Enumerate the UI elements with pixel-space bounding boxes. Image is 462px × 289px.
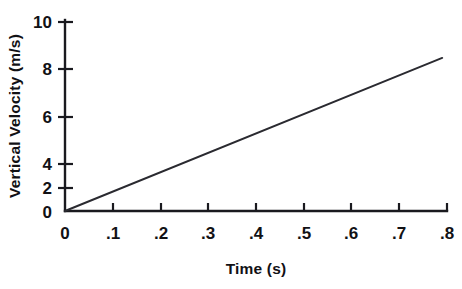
x-tick-label-0.7: .7 — [392, 224, 406, 243]
velocity-time-plot: 10 8 6 4 2 0 0 .1 .2 .3 .4 .5 .6 .7 .8 T… — [0, 0, 462, 289]
x-axis-title: Time (s) — [226, 260, 287, 277]
x-tick-label-0.5: .5 — [297, 224, 311, 243]
y-axis-title: Vertical Velocity (m/s) — [6, 34, 23, 198]
x-tick-label-0: 0 — [60, 224, 69, 243]
x-tick-label-0.4: .4 — [249, 224, 264, 243]
x-tick-label-0.6: .6 — [344, 224, 358, 243]
y-tick-label-0: 0 — [43, 203, 52, 222]
y-tick-label-4: 4 — [43, 155, 53, 174]
x-tick-label-0.1: .1 — [106, 224, 120, 243]
y-tick-label-6: 6 — [43, 108, 52, 127]
y-tick-label-10: 10 — [33, 13, 52, 32]
x-tick-label-0.8: .8 — [440, 224, 454, 243]
y-tick-labels: 10 8 6 4 2 0 — [33, 13, 52, 222]
y-tick-label-8: 8 — [43, 60, 52, 79]
x-tick-labels: 0 .1 .2 .3 .4 .5 .6 .7 .8 — [60, 224, 454, 243]
chart-figure: 10 8 6 4 2 0 0 .1 .2 .3 .4 .5 .6 .7 .8 T… — [0, 0, 462, 289]
x-tick-label-0.2: .2 — [154, 224, 168, 243]
y-tick-label-2: 2 — [43, 179, 52, 198]
velocity-data-line — [65, 58, 442, 211]
x-tick-label-0.3: .3 — [201, 224, 215, 243]
